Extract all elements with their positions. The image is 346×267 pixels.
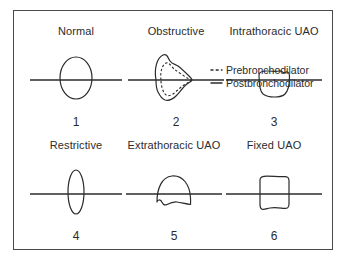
panel-number-1: 1 bbox=[24, 115, 128, 129]
panel-number-4: 4 bbox=[24, 229, 128, 243]
panel-canvas-fixed-uao bbox=[222, 158, 326, 224]
panel-fixed-uao: Fixed UAO 6 bbox=[222, 139, 326, 243]
flow-volume-loop-normal bbox=[24, 44, 128, 110]
panel-title-extrathoracic-uao: Extrathoracic UAO bbox=[122, 139, 226, 151]
dashed-line-icon bbox=[210, 65, 223, 75]
panel-number-3: 3 bbox=[222, 115, 326, 129]
panel-normal: Normal 1 bbox=[24, 25, 128, 129]
panel-title-normal: Normal bbox=[24, 25, 128, 37]
flow-volume-loop-fixed-uao bbox=[222, 158, 326, 224]
flow-volume-loop-extrathoracic-uao bbox=[122, 158, 226, 224]
panel-number-2: 2 bbox=[124, 115, 228, 129]
flow-volume-loop-restrictive bbox=[24, 158, 128, 224]
solid-line-icon bbox=[210, 78, 223, 88]
panel-title-restrictive: Restrictive bbox=[24, 139, 128, 151]
figure-root: Normal 1 Obstructive 2 bbox=[0, 0, 346, 267]
loop-curve bbox=[157, 176, 191, 205]
legend: Prebronchodilator Postbronchodilator bbox=[210, 64, 346, 89]
panel-canvas-restrictive bbox=[24, 158, 128, 224]
loop-curve bbox=[60, 57, 92, 99]
figure-border: Normal 1 Obstructive 2 bbox=[13, 10, 333, 250]
legend-label-prebronchodilator: Prebronchodilator bbox=[226, 64, 309, 77]
loop-curve bbox=[260, 176, 289, 209]
panel-title-obstructive: Obstructive bbox=[124, 25, 228, 37]
legend-item-postbronchodilator: Postbronchodilator bbox=[210, 77, 346, 90]
panel-extrathoracic-uao: Extrathoracic UAO 5 bbox=[122, 139, 226, 243]
panel-canvas-extrathoracic-uao bbox=[122, 158, 226, 224]
panel-title-intrathoracic-uao: Intrathoracic UAO bbox=[222, 25, 326, 37]
panel-restrictive: Restrictive 4 bbox=[24, 139, 128, 243]
panel-number-6: 6 bbox=[222, 229, 326, 243]
panel-number-5: 5 bbox=[122, 229, 226, 243]
loop-curve bbox=[68, 170, 84, 214]
legend-item-prebronchodilator: Prebronchodilator bbox=[210, 64, 346, 77]
panel-canvas-normal bbox=[24, 44, 128, 110]
legend-label-postbronchodilator: Postbronchodilator bbox=[226, 77, 314, 90]
panel-title-fixed-uao: Fixed UAO bbox=[222, 139, 326, 151]
